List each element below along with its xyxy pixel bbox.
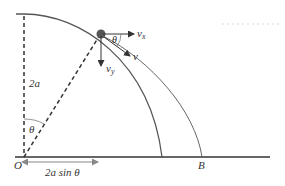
landing-point-label: B — [198, 160, 205, 171]
vx-label: vx — [137, 28, 145, 41]
angle-label-origin: θ — [29, 124, 34, 135]
horizontal-distance-label: 2a sin θ — [45, 167, 80, 178]
radius-to-particle-dashed — [24, 38, 98, 157]
vx-subscript: x — [142, 32, 146, 41]
origin-label: O — [14, 160, 22, 171]
vy-label: vy — [106, 63, 114, 76]
vy-subscript: y — [111, 67, 115, 76]
v-label: v — [133, 51, 138, 62]
trajectory-curve — [103, 36, 202, 157]
angle-label-particle: θ — [112, 35, 117, 45]
height-label: 2a — [29, 78, 40, 89]
v-arrow — [104, 37, 130, 56]
